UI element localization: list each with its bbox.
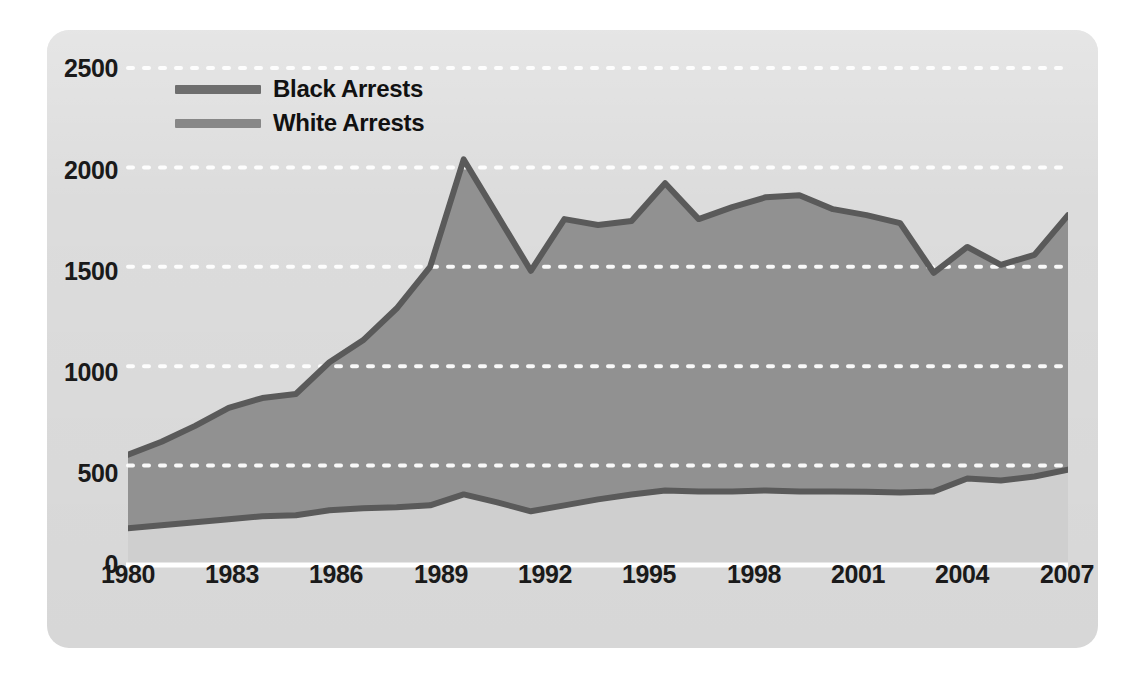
y-tick-500: 500 bbox=[8, 461, 118, 486]
legend-swatch-white-arrests bbox=[175, 119, 261, 128]
y-tick-2000: 2000 bbox=[8, 158, 118, 183]
legend-item-black-arrests: Black Arrests bbox=[175, 72, 424, 106]
area-black-arrests bbox=[128, 159, 1068, 528]
x-tick-2007: 2007 bbox=[1012, 562, 1122, 587]
legend-label-white-arrests: White Arrests bbox=[273, 109, 424, 137]
x-tick-1995: 1995 bbox=[594, 562, 704, 587]
legend-label-black-arrests: Black Arrests bbox=[273, 75, 423, 103]
x-tick-2001: 2001 bbox=[803, 562, 913, 587]
x-tick-1989: 1989 bbox=[386, 562, 496, 587]
y-tick-1000: 1000 bbox=[8, 360, 118, 385]
x-tick-2004: 2004 bbox=[907, 562, 1017, 587]
x-tick-1983: 1983 bbox=[177, 562, 287, 587]
chart-legend: Black Arrests White Arrests bbox=[175, 72, 424, 140]
legend-swatch-black-arrests bbox=[175, 85, 261, 94]
x-tick-1980: 1980 bbox=[73, 562, 183, 587]
y-tick-2500: 2500 bbox=[8, 56, 118, 81]
x-tick-1986: 1986 bbox=[281, 562, 391, 587]
y-tick-1500: 1500 bbox=[8, 259, 118, 284]
x-tick-1992: 1992 bbox=[490, 562, 600, 587]
legend-item-white-arrests: White Arrests bbox=[175, 106, 424, 140]
x-tick-1998: 1998 bbox=[699, 562, 809, 587]
